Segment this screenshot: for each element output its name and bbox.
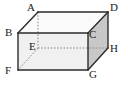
vertex-label-A: A	[27, 2, 35, 13]
cuboid-figure: ADBCEHFG	[0, 0, 128, 86]
vertex-label-C: C	[89, 29, 96, 40]
vertex-label-E: E	[29, 41, 36, 52]
cuboid-svg	[0, 0, 128, 86]
vertex-label-G: G	[89, 69, 97, 80]
vertex-label-D: D	[110, 2, 118, 13]
vertex-label-H: H	[110, 43, 118, 54]
vertex-label-F: F	[5, 65, 11, 76]
vertex-label-B: B	[5, 27, 12, 38]
